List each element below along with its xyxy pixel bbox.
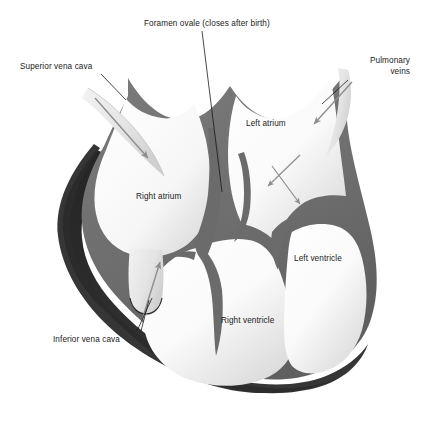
inferior-vena-cava-vessel — [129, 248, 164, 314]
label-superior-vena-cava: Superior vena cava — [20, 62, 92, 73]
label-pulmonary-veins-line2: veins — [390, 67, 410, 76]
heart-diagram-figure: Foramen ovale (closes after birth) Super… — [0, 0, 421, 429]
label-foramen-ovale: Foramen ovale (closes after birth) — [144, 19, 270, 30]
label-left-atrium: Left atrium — [246, 119, 286, 130]
label-right-atrium: Right atrium — [136, 192, 181, 203]
label-left-ventricle: Left ventricle — [294, 254, 342, 265]
label-inferior-vena-cava: Inferior vena cava — [53, 335, 120, 346]
leader-superior-vena-cava — [101, 74, 126, 100]
left-ventricle-chamber — [284, 224, 367, 373]
label-right-ventricle: Right ventricle — [221, 316, 274, 327]
label-pulmonary-veins: Pulmonary veins — [352, 56, 410, 77]
label-pulmonary-veins-line1: Pulmonary — [370, 56, 410, 65]
